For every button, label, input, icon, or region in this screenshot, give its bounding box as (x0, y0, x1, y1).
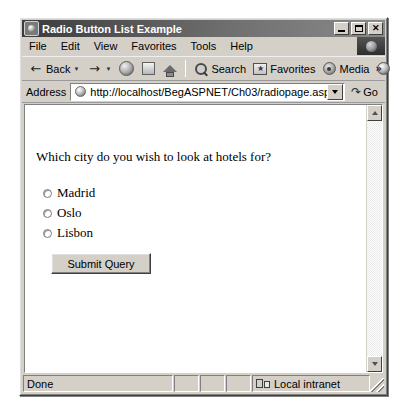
content-area-wrapper: Which city do you wish to look at hotels… (22, 103, 385, 374)
radio-label-oslo: Oslo (57, 205, 82, 221)
local-intranet-icon (256, 378, 270, 390)
ie-globe-icon (24, 21, 39, 36)
menu-item-file[interactable]: File (22, 39, 54, 54)
ie-brand-logo-icon (357, 37, 385, 55)
radio-indicator[interactable] (43, 229, 52, 238)
address-bar: Address http://localhost/BegASPNET/Ch03/… (22, 81, 385, 103)
menu-item-favorites[interactable]: Favorites (124, 39, 183, 54)
vertical-scrollbar[interactable] (366, 105, 382, 372)
back-label: Back (46, 63, 70, 75)
refresh-icon (140, 61, 156, 77)
media-label: Media (339, 63, 369, 75)
home-button[interactable] (159, 58, 181, 79)
radio-indicator[interactable] (43, 189, 52, 198)
radio-option-oslo[interactable]: Oslo (43, 203, 95, 223)
content-area: Which city do you wish to look at hotels… (24, 104, 383, 373)
stop-button[interactable] (115, 58, 137, 79)
back-button[interactable]: ← Back ▼ (25, 58, 83, 79)
stop-icon (118, 61, 134, 77)
menu-item-tools[interactable]: Tools (184, 39, 224, 54)
go-button[interactable]: ↷ Go (345, 86, 382, 98)
media-button[interactable]: Media (318, 58, 372, 79)
status-panel-3 (200, 375, 225, 392)
scroll-up-button[interactable] (367, 105, 382, 121)
forward-button[interactable]: → ▼ (83, 58, 115, 79)
status-bar: Done Local intranet (22, 374, 385, 393)
go-label: Go (363, 86, 378, 98)
favorites-label: Favorites (270, 63, 315, 75)
navigation-toolbar: ← Back ▼ → ▼ Search ★ (22, 56, 385, 81)
menu-item-edit[interactable]: Edit (54, 39, 87, 54)
menu-item-help[interactable]: Help (223, 39, 260, 54)
close-button[interactable]: ✕ (368, 22, 383, 35)
security-zone-label: Local intranet (274, 378, 340, 390)
minimize-icon (338, 30, 345, 32)
window-title: Radio Button List Example (42, 23, 334, 35)
resize-grip[interactable] (370, 378, 384, 392)
radio-option-lisbon[interactable]: Lisbon (43, 223, 95, 243)
back-dropdown-icon[interactable]: ▼ (73, 66, 79, 72)
toolbar-separator (185, 60, 186, 77)
address-label: Address (26, 86, 66, 98)
page-globe-icon (73, 85, 87, 99)
question-text: Which city do you wish to look at hotels… (36, 149, 271, 165)
radio-button-list: Madrid Oslo Lisbon (43, 183, 95, 243)
security-zone-panel[interactable]: Local intranet (252, 375, 370, 392)
title-bar[interactable]: Radio Button List Example ✕ (22, 20, 385, 37)
refresh-button[interactable] (137, 58, 159, 79)
forward-dropdown-icon[interactable]: ▼ (105, 66, 111, 72)
favorites-button[interactable]: ★ Favorites (249, 58, 318, 79)
radio-label-lisbon: Lisbon (57, 225, 93, 241)
arrow-left-icon: ← (28, 61, 44, 77)
browser-window: Radio Button List Example ✕ File Edit Vi… (19, 17, 388, 396)
address-url-text: http://localhost/BegASPNET/Ch03/radiopag… (90, 86, 327, 98)
go-arrow-icon: ↷ (351, 86, 361, 98)
radio-indicator[interactable] (43, 209, 52, 218)
radio-label-madrid: Madrid (57, 185, 95, 201)
media-icon (321, 61, 337, 77)
address-dropdown-button[interactable] (327, 84, 343, 100)
scrollbar-track[interactable] (367, 121, 382, 356)
menu-bar: File Edit View Favorites Tools Help (22, 37, 385, 56)
web-page: Which city do you wish to look at hotels… (25, 105, 366, 372)
search-icon (193, 61, 209, 77)
minimize-button[interactable] (334, 22, 349, 35)
address-input[interactable]: http://localhost/BegASPNET/Ch03/radiopag… (70, 83, 345, 101)
search-button[interactable]: Search (190, 58, 249, 79)
window-controls: ✕ (334, 22, 384, 35)
status-panel-2 (174, 375, 199, 392)
status-panel-4 (226, 375, 251, 392)
maximize-button[interactable] (351, 22, 366, 35)
menu-item-view[interactable]: View (87, 39, 125, 54)
status-text: Done (23, 375, 173, 392)
home-icon (162, 61, 178, 77)
close-icon: ✕ (372, 24, 380, 33)
search-label: Search (211, 63, 246, 75)
radio-option-madrid[interactable]: Madrid (43, 183, 95, 203)
favorites-star-icon: ★ (252, 61, 268, 77)
scroll-down-arrow-icon (372, 362, 378, 366)
submit-query-button[interactable]: Submit Query (51, 253, 151, 274)
window-inner-frame: Radio Button List Example ✕ File Edit Vi… (20, 18, 387, 395)
scroll-up-arrow-icon (372, 111, 378, 115)
maximize-icon (355, 25, 363, 32)
arrow-right-icon: → (86, 61, 102, 77)
scroll-down-button[interactable] (367, 356, 382, 372)
toolbar-overflow-icon[interactable]: » (376, 63, 382, 74)
